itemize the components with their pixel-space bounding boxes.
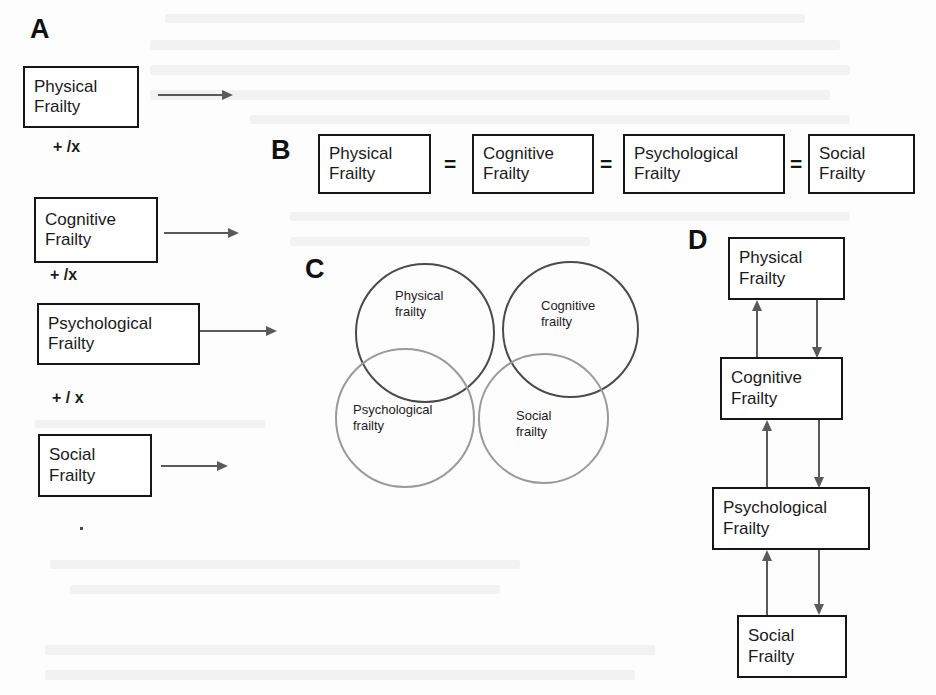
panel-a-operator-2: + /x xyxy=(50,266,77,284)
panel-a-box-cognitive-line2: Frailty xyxy=(45,230,156,250)
panel-a-box-psychological: Psychological Frailty xyxy=(37,303,200,365)
panel-d-box-cognitive-line2: Frailty xyxy=(731,389,841,409)
panel-a-box-physical-line2: Frailty xyxy=(34,97,137,117)
panel-c-label-physical: Physical frailty xyxy=(395,288,443,321)
panel-a-box-social: Social Frailty xyxy=(38,434,152,497)
panel-a-letter: A xyxy=(30,16,50,43)
panel-b-box-social-line2: Frailty xyxy=(819,164,913,184)
panel-d-arrow-down-physical-to-cognitive xyxy=(810,300,824,358)
panel-a-arrow-1 xyxy=(158,88,234,102)
panel-d-arrow-up-social-to-psychological xyxy=(760,550,774,615)
panel-a-arrow-2 xyxy=(164,226,240,240)
panel-b-box-physical: Physical Frailty xyxy=(318,134,431,194)
panel-a-box-psychological-line2: Frailty xyxy=(48,334,198,354)
panel-a-box-cognitive-line1: Cognitive xyxy=(45,210,156,230)
panel-c-label-physical-line2: frailty xyxy=(395,304,443,320)
panel-b-box-cognitive-line1: Cognitive xyxy=(483,144,592,164)
panel-d-box-psychological-line1: Psychological xyxy=(723,498,868,518)
panel-a-box-social-line1: Social xyxy=(49,445,150,465)
panel-d-arrow-up-cognitive-to-physical xyxy=(750,300,764,358)
panel-d-box-psychological-line2: Frailty xyxy=(723,519,868,539)
panel-c-label-social-line1: Social xyxy=(516,408,551,424)
panel-d-box-cognitive-line1: Cognitive xyxy=(731,368,841,388)
panel-b-box-physical-line1: Physical xyxy=(329,144,429,164)
panel-d-arrow-down-psychological-to-social xyxy=(812,550,826,615)
panel-a-box-physical-line1: Physical xyxy=(34,77,137,97)
stray-speck xyxy=(80,527,83,530)
panel-b-box-cognitive-line2: Frailty xyxy=(483,164,592,184)
panel-b-box-psychological-line1: Psychological xyxy=(634,144,783,164)
panel-d-box-psychological: Psychological Frailty xyxy=(712,487,870,550)
panel-a-operator-3: + / x xyxy=(52,389,84,407)
panel-a-box-cognitive: Cognitive Frailty xyxy=(34,197,158,263)
panel-d-box-physical: Physical Frailty xyxy=(728,237,845,300)
panel-a-box-psychological-line1: Psychological xyxy=(48,314,198,334)
panel-d-box-social: Social Frailty xyxy=(737,615,847,678)
panel-d-box-cognitive: Cognitive Frailty xyxy=(720,357,843,420)
panel-a-arrow-4 xyxy=(161,459,229,473)
panel-b-separator-2: = xyxy=(600,152,612,176)
panel-b-box-physical-line2: Frailty xyxy=(329,164,429,184)
panel-d-arrow-down-cognitive-to-psychological xyxy=(812,420,826,488)
panel-d-box-physical-line1: Physical xyxy=(739,248,843,268)
panel-b-separator-1: = xyxy=(444,152,456,176)
panel-b-box-social: Social Frailty xyxy=(808,134,915,194)
panel-a-box-social-line2: Frailty xyxy=(49,466,150,486)
panel-c-label-cognitive-line2: frailty xyxy=(541,314,595,330)
panel-a-arrow-3 xyxy=(200,324,278,338)
panel-c-label-cognitive: Cognitive frailty xyxy=(541,298,595,331)
panel-c-label-physical-line1: Physical xyxy=(395,288,443,304)
panel-c-label-cognitive-line1: Cognitive xyxy=(541,298,595,314)
panel-c-label-social: Social frailty xyxy=(516,408,551,441)
panel-c-label-social-line2: frailty xyxy=(516,424,551,440)
panel-c-label-psychological-line2: frailty xyxy=(353,418,433,434)
panel-d-box-social-line1: Social xyxy=(748,626,845,646)
panel-b-separator-3: = xyxy=(790,152,802,176)
panel-b-letter: B xyxy=(271,137,291,164)
panel-d-box-social-line2: Frailty xyxy=(748,647,845,667)
panel-b-box-psychological: Psychological Frailty xyxy=(623,134,785,194)
panel-c-label-psychological-line1: Psychological xyxy=(353,402,433,418)
panel-b-box-social-line1: Social xyxy=(819,144,913,164)
panel-d-box-physical-line2: Frailty xyxy=(739,269,843,289)
panel-b-box-psychological-line2: Frailty xyxy=(634,164,783,184)
panel-c-label-psychological: Psychological frailty xyxy=(353,402,433,435)
frailty-models-figure: A Physical Frailty + /x Cognitive Frailt… xyxy=(0,0,936,695)
panel-a-operator-1: + /x xyxy=(53,138,80,156)
panel-c-letter: C xyxy=(305,256,325,283)
panel-b-box-cognitive: Cognitive Frailty xyxy=(472,134,594,194)
panel-a-box-physical: Physical Frailty xyxy=(23,66,139,128)
panel-d-letter: D xyxy=(688,227,708,254)
panel-d-arrow-up-psychological-to-cognitive xyxy=(760,420,774,488)
